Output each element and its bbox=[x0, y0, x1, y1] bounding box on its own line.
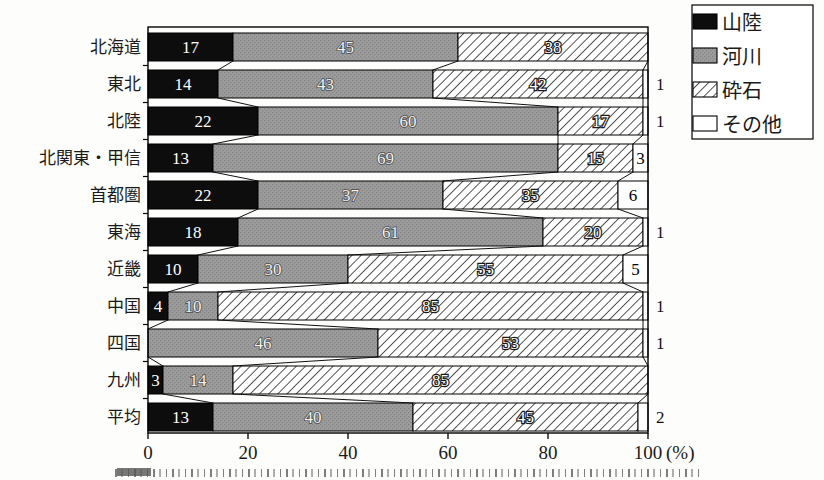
segment-value-label: 13 bbox=[172, 408, 189, 427]
cropped-caption-lead bbox=[117, 468, 151, 476]
segment-value-label: 3 bbox=[151, 371, 160, 390]
y-axis-ticks bbox=[143, 66, 148, 399]
segment-value-label: 40 bbox=[305, 408, 322, 427]
segment-value-label: 53 bbox=[502, 334, 519, 353]
bar-row-8: 四国46531 bbox=[107, 329, 665, 357]
segment-value-label: 3 bbox=[636, 149, 645, 168]
segment-value-label: 45 bbox=[337, 38, 354, 57]
segment-value-label: 22 bbox=[195, 186, 212, 205]
x-axis: 020406080100(%) bbox=[143, 433, 694, 464]
legend-swatch-white-icon bbox=[693, 116, 717, 131]
bar-row-4: 首都圏2237356 bbox=[90, 181, 648, 209]
segment-value-label: 42 bbox=[530, 75, 547, 94]
segment-value-label: 20 bbox=[585, 223, 602, 242]
segment-value-label: 85 bbox=[422, 297, 439, 316]
segment-value-label: 61 bbox=[382, 223, 399, 242]
bar-segment bbox=[643, 70, 648, 98]
bar-segment bbox=[643, 292, 648, 320]
segment-value-label: 5 bbox=[631, 260, 640, 279]
x-tick-label: 60 bbox=[439, 442, 458, 463]
legend-item-label: 河川 bbox=[722, 46, 762, 68]
segment-value-label: 43 bbox=[317, 75, 334, 94]
segment-value-label: 13 bbox=[172, 149, 189, 168]
legend-swatch-hatch-icon bbox=[693, 82, 717, 97]
figure-canvas: 北海道174538東北1443421北陸2260171北関東・甲信1369153… bbox=[0, 0, 824, 480]
bar-row-7: 中国410851 bbox=[107, 292, 665, 320]
segment-value-label: 38 bbox=[545, 38, 562, 57]
bar-segment bbox=[643, 218, 648, 246]
segment-value-label: 22 bbox=[195, 112, 212, 131]
segment-value-label: 18 bbox=[185, 223, 202, 242]
segment-value-label-outside: 1 bbox=[656, 334, 665, 353]
segment-value-label: 30 bbox=[265, 260, 282, 279]
cropped-caption bbox=[115, 469, 700, 477]
segment-value-label: 14 bbox=[190, 371, 208, 390]
x-tick-label: 20 bbox=[239, 442, 258, 463]
stacked-bar-chart: 北海道174538東北1443421北陸2260171北関東・甲信1369153… bbox=[0, 0, 824, 480]
segment-value-label: 60 bbox=[400, 112, 417, 131]
category-label: 東北 bbox=[107, 75, 141, 94]
category-label: 近畿 bbox=[107, 260, 141, 279]
segment-value-label-outside: 1 bbox=[656, 112, 665, 131]
bar-row-1: 東北1443421 bbox=[107, 70, 665, 98]
bar-row-0: 北海道174538 bbox=[90, 33, 648, 61]
category-label: 北陸 bbox=[107, 112, 141, 131]
segment-value-label: 46 bbox=[255, 334, 272, 353]
segment-value-label: 4 bbox=[154, 297, 163, 316]
category-label: 九州 bbox=[107, 371, 141, 390]
bar-segment bbox=[638, 403, 648, 431]
bar-segment bbox=[643, 329, 648, 357]
segment-value-label: 14 bbox=[175, 75, 193, 94]
bar-row-10: 平均1340452 bbox=[107, 403, 665, 431]
bar-row-5: 東海1861201 bbox=[107, 218, 665, 246]
category-label: 四国 bbox=[107, 334, 141, 353]
segment-value-label-outside: 1 bbox=[656, 75, 665, 94]
category-label: 首都圏 bbox=[90, 186, 141, 205]
bar-row-6: 近畿1030555 bbox=[107, 255, 648, 283]
x-tick-label: 80 bbox=[539, 442, 558, 463]
category-label: 東海 bbox=[107, 223, 141, 242]
segment-value-label: 10 bbox=[185, 297, 202, 316]
segment-value-label: 17 bbox=[592, 112, 610, 131]
bar-row-9: 九州31485 bbox=[107, 366, 648, 394]
category-label: 北関東・甲信 bbox=[39, 149, 141, 168]
segment-value-label: 10 bbox=[165, 260, 182, 279]
category-label: 中国 bbox=[107, 297, 141, 316]
category-label: 平均 bbox=[107, 408, 141, 427]
segment-value-label: 6 bbox=[629, 186, 638, 205]
legend: 山陸河川砕石その他 bbox=[692, 5, 813, 139]
segment-value-label: 55 bbox=[477, 260, 494, 279]
segment-value-label: 15 bbox=[587, 149, 604, 168]
segment-value-label-outside: 2 bbox=[656, 408, 665, 427]
legend-item-label: 山陸 bbox=[722, 12, 762, 34]
legend-item-label: 砕石 bbox=[722, 80, 762, 102]
bar-row-2: 北陸2260171 bbox=[107, 107, 665, 135]
legend-swatch-gray-icon bbox=[693, 48, 717, 63]
category-label: 北海道 bbox=[90, 38, 141, 57]
legend-swatch-black-icon bbox=[693, 14, 717, 29]
segment-value-label: 45 bbox=[517, 408, 534, 427]
bar-segment bbox=[643, 107, 648, 135]
segment-value-label-outside: 1 bbox=[656, 223, 665, 242]
x-axis-unit-label: (%) bbox=[666, 442, 694, 464]
x-tick-label: 0 bbox=[143, 442, 153, 463]
bars: 北海道174538東北1443421北陸2260171北関東・甲信1369153… bbox=[39, 33, 665, 431]
segment-value-label-outside: 1 bbox=[656, 297, 665, 316]
x-tick-label: 100 bbox=[634, 442, 663, 463]
segment-value-label: 69 bbox=[377, 149, 394, 168]
segment-value-label: 37 bbox=[342, 186, 360, 205]
segment-value-label: 35 bbox=[522, 186, 539, 205]
bar-row-3: 北関東・甲信1369153 bbox=[39, 144, 648, 172]
segment-value-label: 17 bbox=[182, 38, 200, 57]
segment-value-label: 85 bbox=[432, 371, 449, 390]
x-tick-label: 40 bbox=[339, 442, 358, 463]
legend-item-label: その他 bbox=[722, 114, 782, 136]
